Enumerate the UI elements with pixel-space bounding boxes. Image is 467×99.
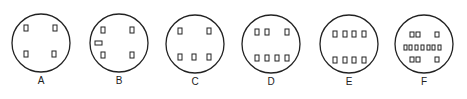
pin-slot	[421, 45, 424, 50]
pin-slot	[352, 57, 356, 63]
pin-slot	[362, 57, 366, 63]
pin-slot	[207, 54, 211, 60]
connector-label: F	[421, 76, 427, 87]
pin-slot	[410, 57, 414, 62]
pin-slot	[265, 29, 269, 35]
pin-slot	[265, 55, 269, 61]
pin-slot	[285, 55, 289, 61]
pin-slot	[432, 45, 435, 50]
pin-slot	[343, 31, 347, 37]
pin-slot	[409, 45, 412, 50]
pin-slot	[362, 31, 366, 37]
pin-slot	[24, 51, 28, 57]
pin-slot	[178, 28, 182, 34]
connector-label: C	[191, 76, 198, 87]
connector-outline	[90, 14, 148, 72]
pin-slot	[95, 41, 102, 45]
connector-outline	[12, 14, 70, 72]
pin-slot	[285, 29, 289, 35]
connector-f: F	[395, 15, 453, 87]
connector-label: E	[346, 76, 353, 87]
pin-slot	[416, 32, 420, 37]
pin-slot	[435, 57, 439, 62]
pin-slot	[101, 27, 105, 33]
connector-d: D	[242, 15, 300, 87]
pin-slot	[275, 55, 279, 61]
pin-slot	[404, 45, 407, 50]
pin-slot	[435, 32, 439, 37]
connector-label: A	[38, 75, 45, 86]
pin-slot	[415, 45, 418, 50]
pin-slot	[427, 45, 430, 50]
pin-slot	[130, 27, 134, 33]
connector-outline	[166, 15, 224, 73]
connector-outline	[242, 15, 300, 73]
pin-slot	[343, 57, 347, 63]
pin-slot	[255, 55, 259, 61]
connector-b: B	[90, 14, 148, 86]
pin-slot	[101, 52, 105, 58]
pin-slot	[438, 45, 441, 50]
pin-slot	[333, 31, 337, 37]
pin-slot	[52, 51, 56, 57]
pin-slot	[352, 31, 356, 37]
pin-slot	[255, 29, 259, 35]
pin-slot	[24, 25, 28, 31]
pin-slot	[130, 52, 134, 58]
pin-slot	[192, 54, 196, 60]
pin-slot	[178, 54, 182, 60]
pin-layout-diagram: ABCDEF	[0, 0, 467, 99]
connector-label: D	[267, 76, 274, 87]
connector-label: B	[116, 75, 123, 86]
connector-c: C	[166, 15, 224, 87]
connector-outline	[320, 15, 378, 73]
pin-slot	[53, 25, 57, 31]
connector-e: E	[320, 15, 378, 87]
pin-slot	[207, 28, 211, 34]
connector-outline	[395, 15, 453, 73]
connector-a: A	[12, 14, 70, 86]
pin-slot	[416, 57, 420, 62]
pin-slot	[410, 32, 414, 37]
pin-slot	[333, 57, 337, 63]
